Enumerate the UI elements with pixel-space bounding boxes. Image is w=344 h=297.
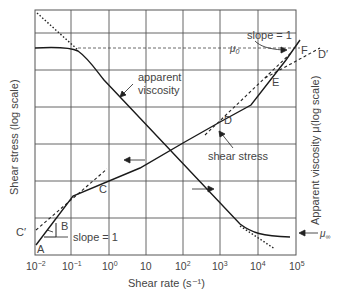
point-label-a: A (37, 243, 45, 255)
point-label-d: D (224, 114, 232, 126)
x-tick-0: 10−2 (26, 260, 46, 272)
point-label-b: B (61, 220, 68, 232)
viscosity-powerlaw-extrapolation-top (37, 13, 78, 50)
horizontal-grid-lines (35, 33, 296, 218)
viscosity-powerlaw-extrapolation-bottom (240, 226, 275, 249)
apparent-viscosity-label-line1: apparent (138, 71, 181, 83)
x-tick-6: 104 (250, 260, 266, 272)
y-axis-left-title: Shear stress (log scale) (8, 79, 20, 195)
slope-label-top: slope = 1 (247, 29, 292, 41)
arrow-right-icon (208, 186, 214, 192)
arrow-head-icon (219, 131, 225, 137)
arrow-left-icon (299, 230, 305, 236)
slope-triangle-low (44, 223, 56, 237)
point-label-c: C (99, 183, 107, 195)
point-label-e: E (272, 76, 279, 88)
x-axis-title: Shear rate (s⁻¹) (128, 277, 205, 289)
x-tick-3: 10 (140, 260, 152, 272)
arrow-left-icon (124, 157, 130, 163)
slope-arrow-low (47, 230, 53, 232)
x-tick-1: 10−1 (62, 260, 82, 272)
shear-stress-label: shear stress (208, 150, 268, 162)
slope-label-bottom: slope = 1 (73, 231, 118, 243)
rheology-chart: A B C C′ D D′ E F apparent viscosity she… (0, 0, 344, 297)
mu-infinity-label: μ∞ (319, 228, 330, 240)
point-label-d-prime: D′ (318, 48, 328, 60)
tangent-line-d-prime-extension (265, 48, 320, 78)
point-label-f: F (301, 44, 308, 56)
x-tick-labels: 10−2 10−1 100 10 102 103 104 105 (26, 260, 305, 272)
mu0-label: μ0 (229, 43, 239, 55)
tangent-line-c-prime-c (36, 169, 107, 230)
x-tick-4: 102 (175, 260, 191, 272)
apparent-viscosity-label-line2: viscosity (138, 84, 180, 96)
tangent-line-d-d-prime (205, 52, 292, 135)
y-axis-right-title: Apparent viscosity μ(log scale) (309, 76, 321, 225)
x-tick-7: 105 (289, 260, 305, 272)
x-tick-5: 103 (212, 260, 228, 272)
x-tick-2: 100 (102, 260, 118, 272)
point-label-c-prime: C′ (16, 226, 26, 238)
